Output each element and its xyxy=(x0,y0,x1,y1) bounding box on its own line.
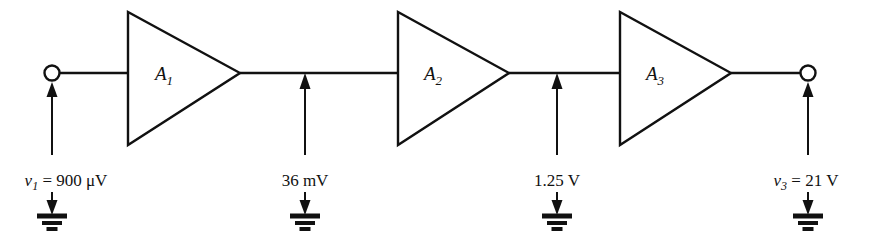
ground-symbol-input xyxy=(37,216,67,229)
node-input[interactable]: v1 = 900 μV xyxy=(25,66,109,230)
amplifier-a3[interactable]: A3 xyxy=(620,12,731,145)
node-mid-1[interactable]: 36 mV xyxy=(282,73,329,229)
input-terminal-circle[interactable] xyxy=(45,66,60,81)
amplifier-triangle-a1 xyxy=(128,12,240,145)
output-arrow-up-head xyxy=(803,82,814,97)
circuit-canvas: A1 A2 A3 v1 = 900 μV xyxy=(0,0,872,242)
node2-voltage-label: 36 mV xyxy=(282,171,329,190)
node2-arrow-down-head xyxy=(300,200,311,215)
ground-symbol-node2 xyxy=(290,216,320,229)
amplifier-triangle-a2 xyxy=(398,12,509,145)
output-voltage-label: v3 = 21 V xyxy=(774,171,840,193)
input-arrow-down-head xyxy=(47,200,58,215)
node2-arrow-up-head xyxy=(300,73,311,89)
amplifier-triangle-a3 xyxy=(620,12,731,145)
ground-symbol-output xyxy=(793,216,823,229)
amplifier-a2[interactable]: A2 xyxy=(398,12,509,145)
ground-symbol-node3 xyxy=(542,216,572,229)
node3-arrow-up-head xyxy=(552,73,563,89)
output-terminal-circle[interactable] xyxy=(801,66,816,81)
node-mid-2[interactable]: 1.25 V xyxy=(534,73,581,229)
node-output[interactable]: v3 = 21 V xyxy=(774,66,840,230)
input-arrow-up-head xyxy=(47,82,58,97)
input-voltage-label: v1 = 900 μV xyxy=(25,171,109,193)
amplifier-a1[interactable]: A1 xyxy=(128,12,240,145)
node3-voltage-label: 1.25 V xyxy=(534,171,581,190)
node3-arrow-down-head xyxy=(552,200,563,215)
output-arrow-down-head xyxy=(803,200,814,215)
amplifier-chain-diagram: A1 A2 A3 v1 = 900 μV xyxy=(0,0,872,242)
